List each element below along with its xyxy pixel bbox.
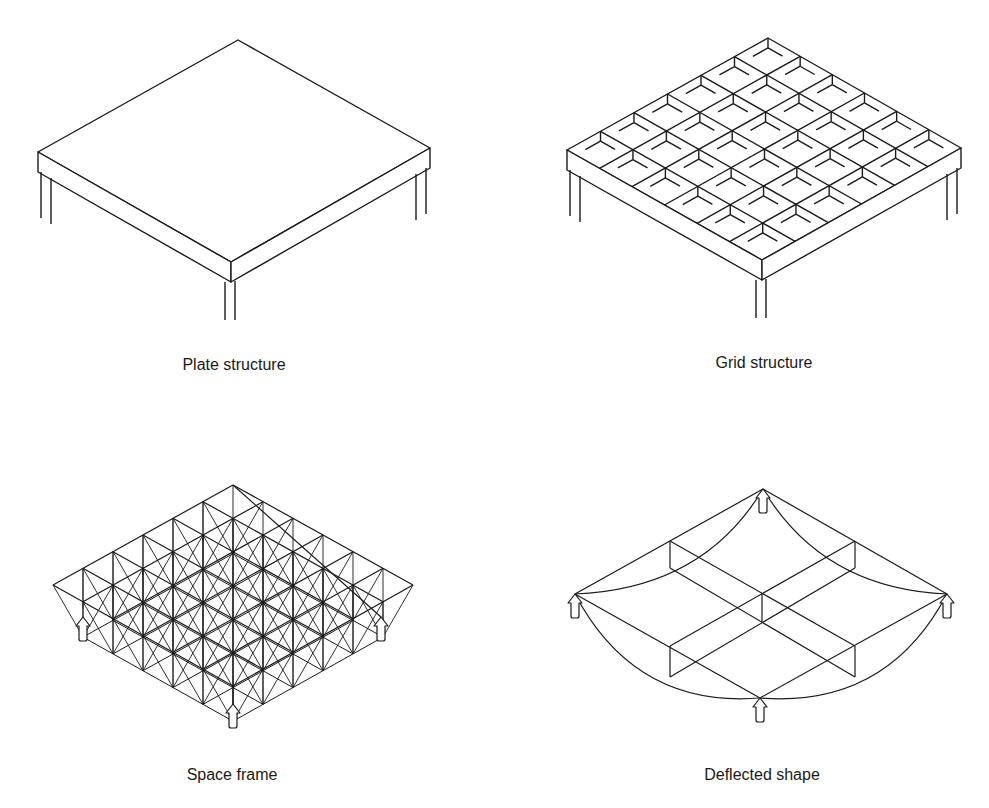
support-arrow-icon	[756, 489, 770, 513]
caption-plate-structure: Plate structure	[182, 356, 285, 374]
support-arrow-icon	[374, 617, 388, 641]
grid-structure-drawing	[567, 38, 961, 318]
plate-structure-drawing	[38, 40, 430, 320]
support-arrow-icon	[568, 594, 582, 618]
support-arrow-icon	[940, 594, 954, 618]
deflected-shape-drawing	[568, 489, 954, 722]
caption-deflected-shape: Deflected shape	[704, 766, 820, 784]
structural-systems-figure	[0, 0, 989, 808]
caption-space-frame: Space frame	[187, 766, 278, 784]
support-arrow-icon	[753, 698, 767, 722]
caption-grid-structure: Grid structure	[716, 354, 813, 372]
support-arrow-icon	[226, 704, 240, 728]
space-frame-drawing	[53, 485, 413, 728]
